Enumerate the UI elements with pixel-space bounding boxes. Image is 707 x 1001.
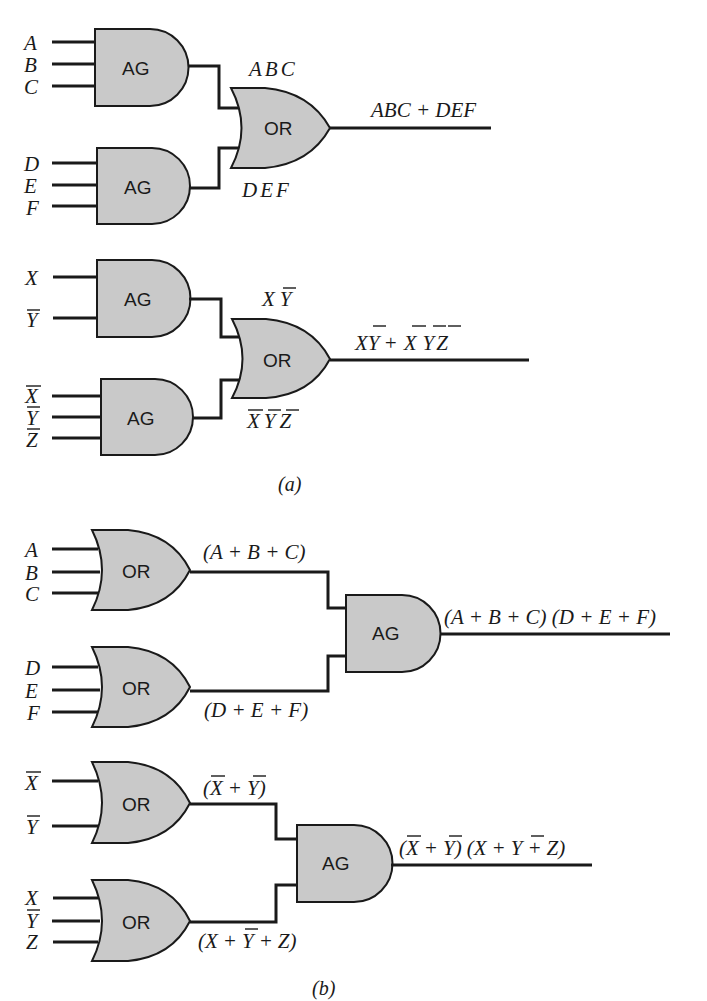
caption-a: (a)	[278, 473, 302, 496]
input-label-y-bar: Y	[26, 308, 40, 332]
input-label-f: F	[26, 701, 40, 725]
part-b-circuit-2: X Y X Y Z OR OR AG (X+Y) (X+Y+Z)	[24, 762, 592, 961]
input-label-y-bar-2: Y	[26, 406, 40, 430]
or-gate-a1-label: OR	[264, 118, 293, 139]
term-label-def: DEF	[241, 178, 292, 202]
and-gate-xy-label: AG	[124, 289, 151, 310]
wire-xy-to-and	[190, 804, 298, 839]
term-label-d-e-f: (D + E + F)	[204, 698, 308, 722]
input-label-x: X	[24, 886, 39, 910]
term-label-xbar-plus-ybar: (X+Y)	[203, 776, 266, 800]
term-label-a-b-c: (A + B + C)	[203, 540, 306, 564]
wire-xyz-to-and	[190, 885, 298, 922]
wire-def-to-and	[190, 656, 346, 691]
input-label-x: X	[24, 266, 39, 290]
output-label-a1: ABC + DEF	[369, 98, 476, 122]
input-label-e: E	[24, 679, 38, 703]
input-label-b: B	[24, 53, 37, 77]
wire-abc-to-and	[190, 572, 346, 608]
svg-text:XY+XYZ: XY+XYZ	[354, 331, 448, 355]
term-label-xbar-ybar-zbar: XYZ	[246, 409, 299, 433]
logic-diagram: A B C D E F AG AG OR ABC DEF ABC + DEF X	[0, 0, 707, 1001]
svg-text:(X+Y)(X+Y+Z): (X+Y)(X+Y+Z)	[399, 836, 565, 860]
or-gate-xy-label: OR	[122, 794, 151, 815]
input-label-x-bar: X	[24, 384, 41, 408]
term-label-x-ybar: XY	[261, 287, 297, 311]
and-gate-xyz-label: AG	[127, 408, 154, 429]
svg-text:(X+Y): (X+Y)	[203, 776, 266, 800]
input-label-a: A	[22, 31, 37, 55]
output-label-b1: (A + B + C) (D + E + F)	[444, 605, 656, 629]
part-b-circuit-1: A B C D E F OR OR AG (A + B + C) (D + E …	[23, 530, 670, 727]
or-gate-abc-label: OR	[122, 561, 151, 582]
or-gate-xyz-label: OR	[122, 912, 151, 933]
input-label-d: D	[24, 656, 40, 680]
output-x: X	[354, 331, 369, 355]
input-label-y-bar: Y	[26, 815, 40, 839]
part-a-circuit-2: X Y X Y Z AG AG OR XY	[24, 260, 529, 455]
input-label-a: A	[23, 538, 38, 562]
svg-text:Y: Y	[26, 308, 40, 332]
svg-text:X: X	[24, 771, 39, 795]
or-gate-def-label: OR	[122, 678, 151, 699]
and-gate-abc-label: AG	[122, 58, 149, 79]
and-gate-b2-label: AG	[322, 853, 349, 874]
input-label-f: F	[25, 196, 39, 220]
input-label-z-bar: Z	[26, 428, 40, 452]
svg-text:(X+Y+Z): (X+Y+Z)	[198, 929, 297, 953]
input-label-e: E	[23, 174, 37, 198]
or-gate-a2-label: OR	[263, 350, 292, 371]
svg-text:XY: XY	[261, 287, 297, 311]
term-label-abc: ABC	[247, 57, 298, 81]
output-y: Y	[368, 331, 382, 355]
input-label-d: D	[23, 152, 39, 176]
input-label-x-bar: X	[24, 771, 41, 795]
svg-text:XYZ: XYZ	[246, 409, 295, 433]
and-gate-b1-label: AG	[372, 623, 399, 644]
input-label-c: C	[25, 582, 40, 606]
term-label-x-plus-ybar-plus-z: (X+Y+Z)	[198, 929, 297, 953]
and-gate-def-label: AG	[124, 177, 151, 198]
svg-text:X: X	[24, 384, 39, 408]
svg-text:Y: Y	[26, 815, 40, 839]
svg-text:Z: Z	[26, 428, 38, 452]
part-a-circuit-1: A B C D E F AG AG OR ABC DEF ABC + DEF	[22, 29, 491, 224]
input-label-z: Z	[26, 930, 38, 954]
caption-b: (b)	[312, 977, 336, 1000]
svg-text:Y: Y	[26, 406, 40, 430]
output-label-b2: (X+Y)(X+Y+Z)	[399, 836, 565, 860]
input-label-c: C	[24, 75, 39, 99]
output-label-a2: XY+XYZ	[354, 326, 461, 355]
